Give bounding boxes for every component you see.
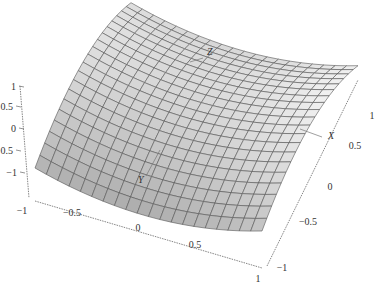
surface-plot: 10.50−0.5−1−1−0.500.51−1−0.500.51XZY [0, 0, 379, 286]
depth-tick-label: −0.5 [299, 216, 317, 227]
z-axis-line [20, 86, 29, 198]
depth-tick-label: 0.5 [349, 140, 362, 151]
front-tick-label: 0 [136, 222, 141, 233]
z-tick [16, 106, 21, 107]
z-tick-label: −1 [6, 167, 17, 178]
x-axis-label: X [327, 130, 335, 141]
front-tick-label: −0.5 [63, 207, 81, 218]
front-tick-label: 1 [256, 273, 261, 284]
z-tick-label: 0 [11, 123, 16, 134]
z-axis-label: Z [207, 46, 213, 57]
z-tick [20, 172, 25, 173]
front-tick-label: −1 [17, 205, 28, 216]
z-tick-label: 0.5 [1, 101, 14, 112]
depth-tick-label: −1 [277, 262, 288, 273]
z-tick [16, 150, 21, 151]
z-tick-label: 1 [11, 81, 16, 92]
front-tick-label: 0.5 [189, 239, 202, 250]
z-tick-label: −0.5 [0, 145, 13, 156]
saddle-surface-mesh [35, 3, 358, 231]
depth-tick-label: 0 [328, 181, 333, 192]
z-tick [19, 128, 24, 129]
depth-tick-label: 1 [370, 110, 375, 121]
